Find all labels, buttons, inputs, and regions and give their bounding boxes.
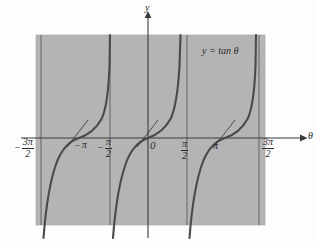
xtick-label-pi-over-two: π2 bbox=[181, 139, 188, 161]
fraction-numerator: 3π bbox=[22, 137, 34, 149]
xtick-label-pi: π bbox=[213, 141, 218, 151]
xtick-label-neg-pi-over-two: −π2 bbox=[97, 137, 112, 159]
y-axis-label: y bbox=[145, 3, 149, 13]
fraction-numerator: π bbox=[105, 137, 112, 149]
fraction-numerator: 3π bbox=[262, 137, 274, 149]
pi-symbol: π bbox=[82, 139, 87, 150]
equation-label: y = tan θ bbox=[202, 46, 238, 56]
origin-label: 0 bbox=[150, 140, 156, 151]
fraction-denominator: 2 bbox=[181, 151, 188, 162]
fraction-numerator: π bbox=[181, 139, 188, 151]
tangent-function-figure: −3π2 −π −π2 0 π2 π 3π2 y θ y = tan θ bbox=[0, 0, 315, 243]
xtick-label-neg-three-pi-over-two: −3π2 bbox=[14, 137, 34, 159]
minus-sign-icon: − bbox=[74, 141, 82, 151]
minus-sign-icon: − bbox=[97, 143, 105, 153]
fraction-denominator: 2 bbox=[262, 149, 274, 160]
x-axis-arrowhead bbox=[300, 135, 308, 142]
xtick-label-three-pi-over-two: 3π2 bbox=[262, 137, 274, 159]
fraction-denominator: 2 bbox=[105, 149, 112, 160]
fraction-denominator: 2 bbox=[22, 149, 34, 160]
minus-sign-icon: − bbox=[14, 143, 22, 153]
x-axis-label: θ bbox=[308, 131, 313, 141]
xtick-label-neg-pi: −π bbox=[74, 140, 87, 151]
plot-canvas bbox=[0, 0, 315, 243]
